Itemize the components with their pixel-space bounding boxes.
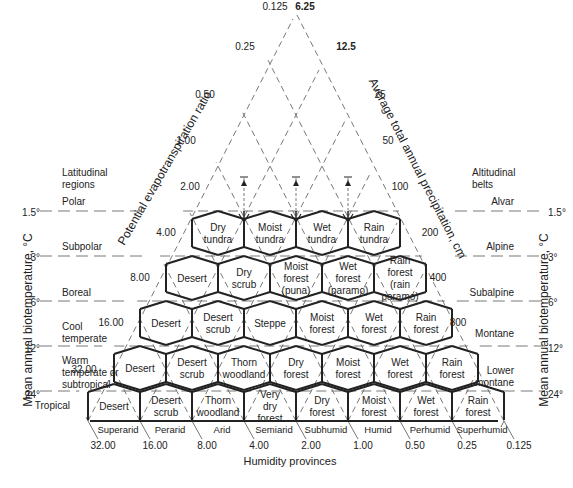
life-zone-label: forest [257, 413, 282, 424]
life-zone-label: tundra [360, 234, 389, 245]
latitudinal-header: Latitudinal [62, 167, 108, 178]
hexagon-edge [192, 337, 218, 345]
labels: DrytundraMoisttundraWettundraRaintundraD… [21, 1, 566, 467]
top-pet-label: 0.125 [262, 1, 287, 12]
left-temperature-label: 12° [25, 343, 40, 354]
hexagon-edge [322, 337, 348, 345]
hexagon-edge [296, 337, 322, 345]
life-zone-label: Moist [258, 222, 282, 233]
hexagon-edge [374, 301, 400, 309]
life-zone-label: forest [361, 324, 386, 335]
life-zone-label: forest [283, 273, 308, 284]
hexagon-edge [322, 301, 348, 309]
hexagon-edge [322, 346, 348, 354]
right-temperature-label: 24° [548, 389, 563, 400]
life-zone-label: Dry [314, 395, 330, 406]
humidity-province-label: Perhumid [410, 424, 451, 435]
life-zone-label: Moist [362, 395, 386, 406]
pet-tick-label: 16.00 [98, 317, 123, 328]
hexagon-edge [296, 346, 322, 354]
altitudinal-header: Altitudinal [472, 167, 515, 178]
precip-tick-label: 50 [382, 135, 394, 146]
life-zone-label: woodland [222, 369, 266, 380]
right-temperature-label: 12° [548, 343, 563, 354]
life-zone-label: Rain [390, 255, 411, 266]
life-zone-label: Steppe [254, 318, 286, 329]
hexagon-edge [400, 301, 426, 309]
life-zone-label: forest [413, 324, 438, 335]
hexagon-edge [166, 337, 192, 345]
life-zone-label: tundra [256, 234, 285, 245]
life-zone-label: Rain [416, 312, 437, 323]
right-temperature-label: 1.5° [548, 207, 566, 218]
precip-tick-label: 100 [392, 181, 409, 192]
left-temperature-label: 3° [30, 252, 40, 263]
hexagon-edge [348, 346, 374, 354]
life-zone-label: Wet [417, 395, 435, 406]
humidity-province-label: Semiarid [255, 424, 293, 435]
hexagon-edge [348, 301, 374, 309]
life-zone-label: tundra [308, 234, 337, 245]
latitudinal-region-label: Cool [62, 321, 83, 332]
life-zone-label: Desert [151, 318, 181, 329]
life-zone-label: woodland [196, 407, 240, 418]
hexagon-edge [192, 211, 218, 219]
latitudinal-region-label: Polar [62, 196, 86, 207]
hexagon-edge [452, 346, 478, 354]
latitudinal-region-label: subtropical [62, 379, 110, 390]
latitudinal-region-label: temperate or [62, 367, 119, 378]
hexagon-edge [244, 247, 270, 255]
right-temperature-label: 3° [548, 252, 558, 263]
altitudinal-belt-label: Subalpine [470, 287, 515, 298]
hexagon-edge [400, 337, 426, 345]
life-zone-label: Desert [151, 395, 181, 406]
life-zone-label: scrub [232, 279, 257, 290]
hexagon-edge [374, 337, 400, 345]
life-zone-label: scrub [180, 369, 205, 380]
life-zone-label: Dry [236, 267, 252, 278]
life-zone-label: forest [387, 267, 412, 278]
hexagon-edge [166, 301, 192, 309]
hexagon-edge [218, 301, 244, 309]
life-zone-label: forest [335, 369, 360, 380]
left-temperature-label: 1.5° [22, 207, 40, 218]
humidity-province-label: Humid [364, 424, 391, 435]
hexagon-edge [114, 346, 140, 354]
life-zone-label: forest [283, 369, 308, 380]
life-zone-label: Moist [310, 312, 334, 323]
life-zone-label: dry [263, 401, 277, 412]
hexagon-edge [400, 346, 426, 354]
latitudinal-header: regions [62, 179, 95, 190]
left-temperature-label: 6° [30, 297, 40, 308]
hexagon-edge [244, 301, 270, 309]
hexagon-edge [296, 247, 322, 255]
life-zone-label: Wet [391, 357, 409, 368]
life-zone-label: forest [309, 407, 334, 418]
life-zone-label: forest [335, 273, 360, 284]
life-zone-label: forest [361, 407, 386, 418]
bottom-pet-tick-label: 0.25 [457, 440, 477, 451]
life-zone-label: forest [387, 369, 412, 380]
life-zone-label: scrub [154, 407, 179, 418]
hexagon-edge [218, 247, 244, 255]
holdridge-life-zones-diagram: DrytundraMoisttundraWettundraRaintundraD… [0, 0, 573, 488]
hexagon-edge [348, 337, 374, 345]
life-zone-label: (puna) [282, 285, 311, 296]
hexagon-edge [270, 346, 296, 354]
life-zone-label: Thorn [231, 357, 257, 368]
left-temperature-label: 24° [25, 389, 40, 400]
tick-leader [400, 421, 410, 439]
hexagon-edge [426, 337, 452, 345]
life-zone-label: forest [309, 324, 334, 335]
altitudinal-belt-label: montane [475, 377, 514, 388]
life-zone-label: Dry [210, 222, 226, 233]
life-zone-label: Dry [288, 357, 304, 368]
life-zone-label: tundra [204, 234, 233, 245]
life-zone-label: Wet [365, 312, 383, 323]
hexagon-edge [140, 337, 166, 345]
life-zone-label: Desert [99, 401, 129, 412]
life-zone-label: Moist [284, 261, 308, 272]
bottom-pet-tick-label: 32.00 [90, 440, 115, 451]
life-zone-label: forest [413, 407, 438, 418]
tick-leader [140, 421, 150, 439]
